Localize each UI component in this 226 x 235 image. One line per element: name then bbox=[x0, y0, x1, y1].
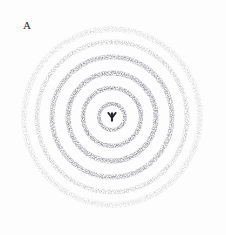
panel-label: A bbox=[23, 20, 31, 31]
figure-panel: A bbox=[0, 0, 226, 235]
diffraction-plate bbox=[0, 0, 226, 235]
diffraction-pattern-svg bbox=[0, 0, 226, 235]
